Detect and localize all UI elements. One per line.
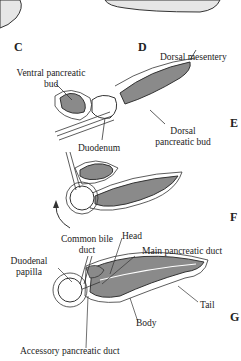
label-body: Body bbox=[136, 318, 157, 328]
label-dorsal-pancreatic-bud-line1: Dorsal bbox=[148, 126, 218, 136]
label-ventral-pancreatic-bud-line1: Ventral pancreatic bbox=[6, 68, 96, 78]
label-duodenal-papilla-line2: papilla bbox=[4, 267, 54, 277]
label-tail: Tail bbox=[200, 300, 215, 310]
stippled-shape-right bbox=[105, 0, 220, 12]
stippled-shape-left bbox=[0, 0, 21, 28]
panel-label-g: G bbox=[230, 310, 239, 325]
label-ventral-pancreatic-bud-line2: bud bbox=[6, 79, 96, 89]
label-common-bile-duct-line2: duct bbox=[52, 245, 122, 255]
label-head: Head bbox=[122, 231, 142, 241]
label-duodenal-papilla-line1: Duodenal bbox=[4, 256, 54, 266]
label-dorsal-pancreatic-bud-line2: pancreatic bud bbox=[148, 137, 218, 147]
label-common-bile-duct-line1: Common bile bbox=[52, 234, 122, 244]
panel-label-c: C bbox=[14, 40, 23, 55]
label-dorsal-mesentery: Dorsal mesentery bbox=[160, 52, 227, 62]
panel-label-d: D bbox=[138, 40, 147, 55]
panel-label-f: F bbox=[230, 210, 237, 225]
stage-f-drawing bbox=[53, 152, 182, 228]
label-main-pancreatic-duct: Main pancreatic duct bbox=[142, 246, 222, 256]
label-duodenum: Duodenum bbox=[78, 143, 120, 153]
panel-label-e: E bbox=[230, 116, 238, 131]
label-accessory-pancreatic-duct: Accessory pancreatic duct bbox=[20, 346, 120, 356]
